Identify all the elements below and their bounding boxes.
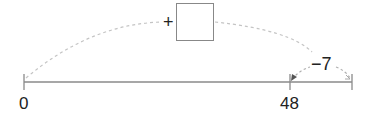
big-jump-arc-right <box>215 22 312 52</box>
big-jump-arc-left <box>26 22 162 78</box>
answer-box[interactable] <box>176 3 214 41</box>
tick-label-48: 48 <box>280 95 299 112</box>
plus-operator: + <box>163 13 174 31</box>
tick-label-0: 0 <box>19 95 28 112</box>
small-jump-label: −7 <box>311 55 332 73</box>
